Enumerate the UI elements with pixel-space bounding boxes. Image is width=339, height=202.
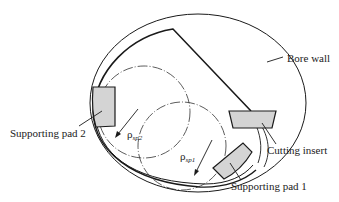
supporting-pad-2 <box>92 87 115 127</box>
tool-body-outline <box>93 29 251 112</box>
rho-sp1-label: ρsp1 <box>180 151 195 164</box>
supporting-pad-1-label: Supporting pad 1 <box>231 181 307 192</box>
rho-sp2-subscript: sp2 <box>133 134 143 142</box>
supporting-pad-2-label: Supporting pad 2 <box>10 128 86 139</box>
rho-sp1-subscript: sp1 <box>186 156 196 164</box>
bore-wall-label: Bore wall <box>287 53 330 64</box>
cutting-insert-label: Cutting insert <box>267 145 327 156</box>
bore-wall-leader <box>267 57 283 62</box>
cutting-insert <box>229 111 276 128</box>
insert-support-curve <box>256 125 261 163</box>
pad1-radius-circle <box>138 102 226 190</box>
rho-sp1-arrow-line <box>196 140 212 172</box>
bore-wall-circle <box>90 14 306 192</box>
diagram-canvas <box>0 0 339 202</box>
rho-sp1-arrowhead <box>194 169 199 176</box>
supporting-pad-1 <box>213 143 252 179</box>
rho-sp2-label: ρsp2 <box>127 129 142 142</box>
